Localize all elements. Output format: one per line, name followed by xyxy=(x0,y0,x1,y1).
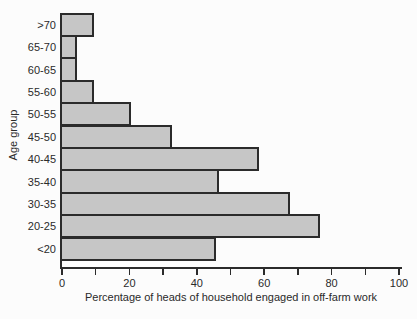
bar-chart-figure: >7065-7060-6555-6050-5545-5040-4535-4030… xyxy=(0,0,417,319)
category-label-20: <20 xyxy=(4,242,56,256)
x-tick-label-0: 0 xyxy=(45,277,79,289)
x-tick-label-20: 20 xyxy=(112,277,146,289)
bar-55-60 xyxy=(60,80,94,104)
x-tick-40 xyxy=(196,269,198,275)
x-tick-70 xyxy=(297,269,299,275)
category-label-60-65: 60-65 xyxy=(4,63,56,77)
x-tick-80 xyxy=(331,269,333,275)
x-tick-10 xyxy=(95,269,97,275)
x-tick-60 xyxy=(263,269,265,275)
bar-45-50 xyxy=(60,125,172,149)
category-label-55-60: 55-60 xyxy=(4,85,56,99)
x-tick-label-40: 40 xyxy=(180,277,214,289)
bar-30-35 xyxy=(60,192,290,216)
bar-40-45 xyxy=(60,147,259,171)
category-label-65-70: 65-70 xyxy=(4,40,56,54)
x-tick-30 xyxy=(162,269,164,275)
category-label-30-35: 30-35 xyxy=(4,197,56,211)
bar-20-25 xyxy=(60,214,320,238)
bar-20 xyxy=(60,237,216,261)
category-label-35-40: 35-40 xyxy=(4,175,56,189)
bar-50-55 xyxy=(60,102,131,126)
x-tick-50 xyxy=(230,269,232,275)
y-axis-title: Age group xyxy=(7,110,19,161)
x-tick-90 xyxy=(365,269,367,275)
x-axis-title: Percentage of heads of household engaged… xyxy=(62,291,400,303)
bar-65-70 xyxy=(60,35,77,59)
x-tick-100 xyxy=(398,269,400,275)
x-tick-0 xyxy=(61,269,63,275)
category-label-20-25: 20-25 xyxy=(4,219,56,233)
category-label-70: >70 xyxy=(4,18,56,32)
x-tick-label-60: 60 xyxy=(247,277,281,289)
x-tick-label-80: 80 xyxy=(315,277,349,289)
bar-60-65 xyxy=(60,57,77,81)
bar-35-40 xyxy=(60,169,219,193)
x-tick-label-100: 100 xyxy=(382,277,416,289)
y-axis-line xyxy=(60,13,62,269)
x-tick-20 xyxy=(129,269,131,275)
plot-area: >7065-7060-6555-6050-5545-5040-4535-4030… xyxy=(0,0,417,319)
bar-70 xyxy=(60,13,94,37)
